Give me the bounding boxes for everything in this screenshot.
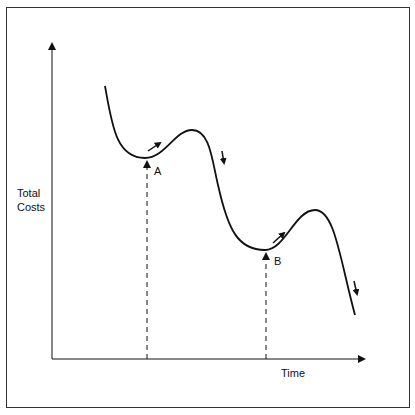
direction-arrow-icon [148, 143, 160, 151]
frame [7, 8, 410, 408]
direction-arrow-icon [354, 281, 357, 294]
y-axis-label-line2: Costs [17, 200, 45, 214]
y-axis-label-line1: Total [17, 186, 45, 200]
x-axis-label: Time [281, 366, 305, 380]
direction-arrow-icon [273, 233, 284, 243]
total-costs-diagram [0, 0, 415, 415]
point-a-label: A [154, 164, 161, 178]
cost-curve [105, 86, 355, 315]
point-b-label: B [274, 254, 281, 268]
y-axis-label: Total Costs [17, 186, 45, 214]
direction-arrow-icon [222, 151, 224, 163]
